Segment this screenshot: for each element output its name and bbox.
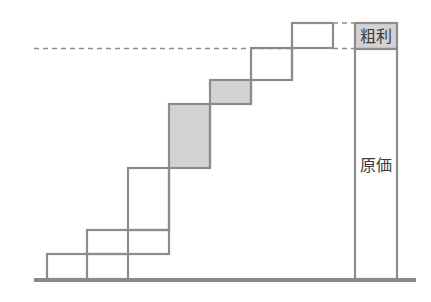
step-4-shaded — [169, 104, 210, 168]
cost-profit-staircase-diagram: 粗利 原価 — [0, 0, 431, 302]
step-6 — [251, 48, 292, 80]
gross-profit-label: 粗利 — [360, 27, 392, 46]
step-7 — [292, 23, 333, 48]
cost-label: 原価 — [360, 156, 392, 175]
step-5-shaded — [210, 80, 251, 104]
step-3 — [128, 168, 169, 230]
baseline — [34, 278, 416, 282]
staircase — [47, 23, 333, 279]
